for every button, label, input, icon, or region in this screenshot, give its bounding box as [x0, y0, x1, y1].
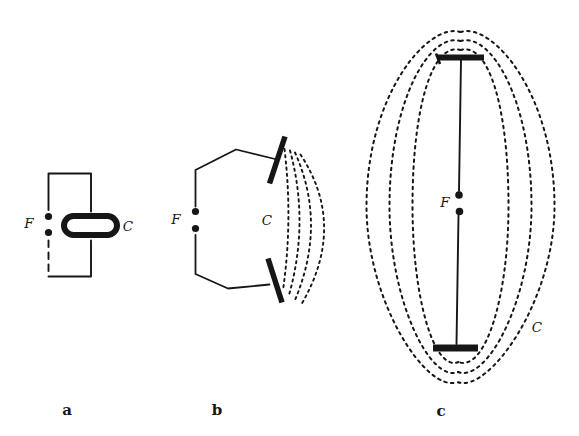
panel-b: F C	[170, 137, 324, 306]
circuit-loop-upper-wire	[49, 174, 92, 212]
fringe-field-arcs	[283, 149, 324, 305]
capacitor-label-a: C	[123, 218, 134, 234]
feed-point-label-c: F	[439, 194, 450, 210]
field-loop-middle-right	[458, 40, 532, 373]
figure-canvas: F C F C	[0, 0, 579, 436]
spark-gap-upper-dot	[455, 191, 463, 199]
spark-gap-upper-dot	[45, 213, 52, 220]
captions: a b c	[62, 401, 445, 420]
caption-a: a	[62, 401, 72, 419]
spark-gap-lower-dot	[45, 229, 52, 236]
field-arc-1	[283, 149, 288, 290]
open-circuit-lower-wire	[196, 235, 270, 289]
caption-b: b	[212, 401, 223, 419]
field-loop-inner-right	[459, 49, 509, 363]
capacitor-stadium	[64, 216, 117, 235]
panel-c: F C	[367, 31, 555, 383]
open-circuit-upper-wire	[196, 150, 278, 207]
dipole-rod-upper	[459, 60, 461, 191]
panel-a: F C	[23, 174, 134, 277]
field-arc-2	[289, 151, 300, 296]
feed-point-label-a: F	[23, 215, 34, 231]
capacitor-label-c: C	[532, 319, 543, 335]
dipole-rod-lower	[457, 216, 459, 345]
tilted-plate-top	[270, 137, 286, 184]
spark-gap-upper-dot	[192, 208, 199, 215]
capacitor-label-b: C	[262, 212, 273, 228]
spark-gap-lower-dot	[456, 208, 464, 216]
field-loop-inner-left	[413, 49, 461, 363]
tilted-plate-bottom	[268, 259, 282, 303]
circuit-loop-lower-wire	[49, 241, 92, 277]
spark-gap-lower-dot	[192, 225, 199, 232]
field-arc-3	[295, 153, 311, 301]
oscillator-to-dipole-figure: F C F C	[0, 0, 579, 436]
caption-c: c	[436, 402, 445, 420]
feed-point-label-b: F	[170, 211, 181, 227]
field-loop-middle-left	[390, 40, 461, 373]
